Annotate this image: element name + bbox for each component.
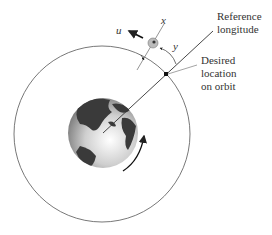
variable-y: y	[173, 40, 178, 52]
label-line: location	[201, 67, 236, 80]
desired-location-marker	[164, 72, 168, 76]
desired-location-label: Desired location on orbit	[201, 54, 236, 93]
reference-longitude-line	[103, 31, 213, 133]
variable-u: u	[116, 24, 122, 36]
reference-longitude-label: Reference longitude	[217, 10, 262, 36]
label-line: longitude	[217, 23, 262, 36]
variable-x: x	[161, 14, 166, 26]
u-thrust-arrow	[129, 31, 143, 38]
label-line: on orbit	[201, 80, 236, 93]
label-line: Desired	[201, 54, 236, 67]
label-line: Reference	[217, 10, 262, 23]
desired-location-leader	[168, 65, 197, 74]
satellite	[148, 38, 158, 48]
